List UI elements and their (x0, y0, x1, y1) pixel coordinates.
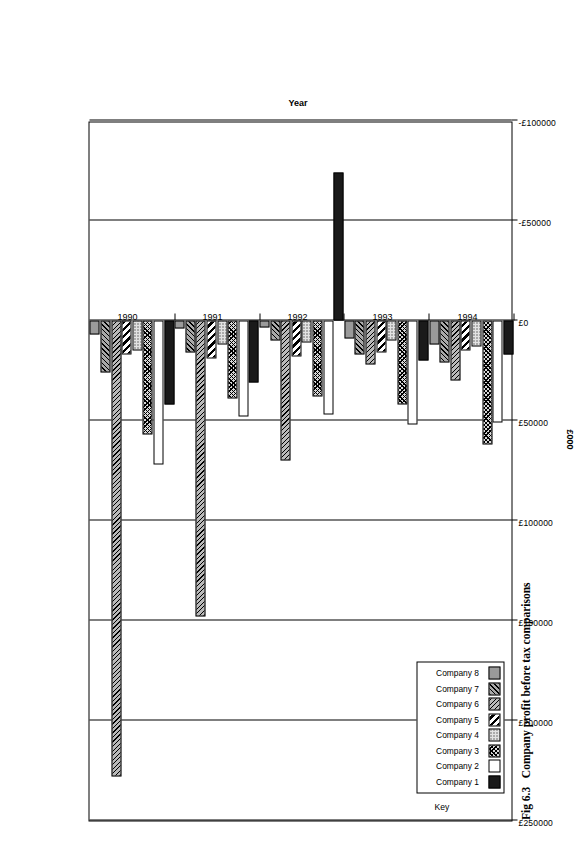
legend-item-3[interactable]: Company 3 (420, 743, 500, 759)
category-label-1993: 1993 (372, 311, 392, 321)
legend-swatch-reverse-diagonal-grey (488, 682, 500, 695)
legend-item-label: Company 2 (436, 761, 479, 771)
bar-1990-company-1 (164, 320, 174, 404)
value-axis-title: £000 (564, 429, 574, 449)
value-axis-tick (511, 219, 517, 220)
legend-swatch-diagonal-fine-grey (488, 697, 500, 710)
bar-1991-company-8 (174, 320, 184, 328)
bar-1994-company-7 (439, 320, 449, 362)
legend-item-label: Company 7 (436, 683, 479, 693)
bar-1993-company-6 (365, 320, 375, 364)
legend-item-label: Company 8 (436, 668, 479, 678)
bar-1993-company-7 (354, 320, 364, 354)
legend-item-2[interactable]: Company 2 (420, 758, 500, 774)
bar-1991-company-6 (195, 320, 205, 616)
category-axis-title: Year (288, 97, 307, 107)
legend-item-7[interactable]: Company 7 (420, 681, 500, 697)
bar-1990-company-5 (121, 320, 131, 354)
category-tick (513, 313, 514, 320)
legend-item-8[interactable]: Company 8 (420, 665, 500, 681)
legend-item-label: Company 6 (436, 699, 479, 709)
bar-1994-company-3 (482, 320, 492, 444)
legend-item-label: Company 3 (436, 745, 479, 755)
bar-1991-company-1 (248, 320, 258, 382)
legend-item-4[interactable]: Company 4 (420, 727, 500, 743)
bar-1990-company-7 (100, 320, 110, 372)
bar-1992-company-7 (270, 320, 280, 340)
value-axis-tick-label: -£50000 (518, 217, 551, 227)
bar-1992-company-4 (301, 320, 311, 342)
legend-item-label: Company 1 (436, 776, 479, 786)
value-axis-tick (511, 719, 517, 720)
legend-box[interactable]: Company 1Company 2Company 3Company 4Comp… (416, 661, 504, 793)
bar-1990-company-2 (153, 320, 163, 464)
bar-1994-company-4 (471, 320, 481, 346)
bar-1993-company-5 (376, 320, 386, 352)
value-axis-tick (511, 519, 517, 520)
value-axis-tick-label: £100000 (518, 517, 553, 527)
legend-item-label: Company 4 (436, 730, 479, 740)
legend-item-1[interactable]: Company 1 (420, 774, 500, 790)
value-axis-tick-label: £0 (518, 317, 528, 327)
bar-1992-company-5 (291, 320, 301, 356)
legend-item-6[interactable]: Company 6 (420, 696, 500, 712)
gridline (89, 519, 511, 520)
bar-1993-company-8 (344, 320, 354, 338)
bar-1994-company-6 (450, 320, 460, 380)
figure-caption-number: Fig 6.3 Company profit before tax compar… (520, 582, 532, 820)
bar-1993-company-4 (386, 320, 396, 340)
category-label-1992: 1992 (287, 311, 307, 321)
category-label-1991: 1991 (202, 311, 222, 321)
category-label-1990: 1990 (117, 311, 137, 321)
bar-1991-company-7 (185, 320, 195, 352)
category-tick (259, 313, 260, 320)
legend-swatch-cross-hatch-light (488, 744, 500, 757)
gridline (89, 219, 511, 220)
bar-1993-company-3 (397, 320, 407, 404)
gridline (89, 619, 511, 620)
value-axis-tick (511, 619, 517, 620)
bar-1990-company-3 (142, 320, 152, 434)
bar-1990-company-6 (111, 320, 121, 776)
bar-1994-company-1 (503, 320, 513, 354)
bar-1992-company-2 (323, 320, 333, 414)
legend-swatch-solid-grey (488, 666, 500, 679)
value-axis-tick-label: -£100000 (518, 117, 556, 127)
category-label-1994: 1994 (457, 311, 477, 321)
value-axis-tick (511, 119, 517, 120)
bar-1993-company-1 (418, 320, 428, 360)
legend-item-5[interactable]: Company 5 (420, 712, 500, 728)
bar-1990-company-8 (89, 320, 99, 334)
bar-1990-company-4 (132, 320, 142, 350)
gridline (89, 119, 511, 120)
bar-1992-company-8 (259, 320, 269, 327)
category-tick (174, 313, 175, 320)
bar-1992-company-3 (312, 320, 322, 396)
bar-1992-company-6 (280, 320, 290, 460)
legend-swatch-white (488, 759, 500, 772)
value-axis-tick (511, 819, 517, 820)
bar-1993-company-2 (407, 320, 417, 424)
bar-1994-company-2 (492, 320, 502, 422)
value-axis-tick (511, 419, 517, 420)
bar-1991-company-5 (206, 320, 216, 358)
legend-item-label: Company 5 (436, 714, 479, 724)
value-axis-tick-label: £50000 (518, 417, 548, 427)
category-tick (428, 313, 429, 320)
bar-1991-company-4 (217, 320, 227, 344)
legend-swatch-diagonal-bold (488, 713, 500, 726)
bar-1991-company-3 (227, 320, 237, 398)
bar-1991-company-2 (238, 320, 248, 416)
legend-swatch-solid-black (488, 775, 500, 788)
bar-1992-company-1 (333, 172, 343, 320)
legend-title: Key (434, 801, 449, 811)
category-tick (343, 313, 344, 320)
gridline (89, 819, 511, 820)
bar-1994-company-8 (429, 320, 439, 344)
legend-swatch-dotted (488, 728, 500, 741)
bar-1994-company-5 (460, 320, 470, 350)
